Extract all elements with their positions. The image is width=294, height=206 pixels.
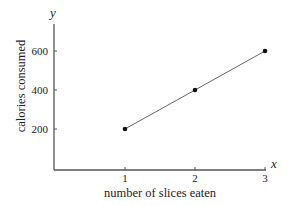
y-tick-label-200: 200 — [32, 123, 49, 135]
x-tick-label-3: 3 — [262, 172, 268, 184]
y-tick-label-600: 600 — [32, 45, 49, 57]
line-chart: y x 600 400 200 1 2 3 number of slices e… — [0, 0, 294, 206]
x-tick-label-1: 1 — [122, 172, 128, 184]
y-tick-label-400: 400 — [32, 84, 49, 96]
y-axis-title: calories consumed — [14, 39, 28, 132]
data-point-2 — [193, 88, 198, 93]
x-axis-variable: x — [270, 156, 277, 171]
y-axis-variable: y — [48, 5, 56, 20]
x-axis-title: number of slices eaten — [104, 186, 217, 200]
data-point-1 — [123, 127, 128, 132]
data-point-3 — [263, 49, 268, 54]
x-tick-label-2: 2 — [192, 172, 198, 184]
y-ticks: 600 400 200 — [32, 45, 58, 135]
